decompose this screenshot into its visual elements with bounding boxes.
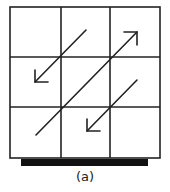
arrow-down-left-icon — [87, 80, 137, 131]
figure-caption: (a) — [0, 169, 170, 184]
grid-border — [10, 7, 160, 158]
grid-diagram — [0, 0, 170, 192]
grid-lines — [10, 7, 160, 158]
arrows — [35, 30, 137, 135]
base-bar — [21, 159, 148, 166]
